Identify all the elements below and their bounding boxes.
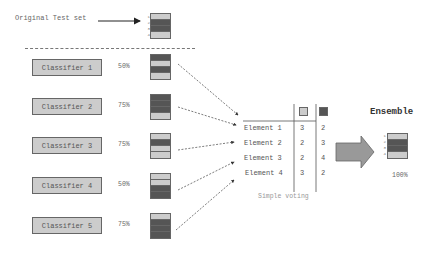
- classifier-4-stack: [150, 173, 171, 199]
- classifier-3-stack: [150, 133, 171, 159]
- row-label: Element 1: [244, 124, 282, 132]
- classifier-5-box: Classifier 5: [32, 217, 102, 234]
- classifier-4-accuracy: 50%: [118, 181, 130, 188]
- ensemble-title: Ensemble: [370, 107, 413, 117]
- legend-dark-square: [319, 107, 328, 116]
- big-arrow-icon: [336, 136, 374, 168]
- ensemble-accuracy: 100%: [392, 172, 408, 179]
- vote-light: 3: [300, 124, 304, 132]
- classifier-3-box: Classifier 3: [32, 137, 102, 154]
- classifier-1-stack: [150, 54, 171, 80]
- classifier-2-accuracy: 75%: [118, 102, 130, 109]
- divider: [25, 48, 195, 49]
- vote-light: 2: [300, 139, 304, 147]
- classifier-5-accuracy: 75%: [118, 221, 130, 228]
- original-test-set-stack: [150, 13, 171, 39]
- row-label: Element 2: [244, 139, 282, 147]
- vote-dark: 4: [321, 154, 325, 162]
- row-label: Element 3: [244, 154, 282, 162]
- classifier-5-stack: [150, 213, 171, 239]
- vote-light: 2: [300, 154, 304, 162]
- row-label: Element 4: [245, 169, 283, 177]
- vote-dark: 2: [321, 169, 325, 177]
- classifier-1-accuracy: 50%: [118, 63, 130, 70]
- vote-dark: 2: [321, 124, 325, 132]
- ensemble-index-col: 1 2 3 4: [380, 133, 386, 157]
- classifier-3-accuracy: 75%: [118, 141, 130, 148]
- ensemble-stack: [387, 133, 408, 159]
- classifier-4-box: Classifier 4: [32, 177, 102, 194]
- classifier-2-stack: [150, 94, 171, 120]
- vote-dark: 3: [321, 139, 325, 147]
- classifier-2-box: Classifier 2: [32, 98, 102, 115]
- vote-light: 3: [300, 169, 304, 177]
- classifier-1-box: Classifier 1: [32, 59, 102, 76]
- original-test-set-label: Original Test set: [15, 14, 86, 22]
- legend-light-square: [299, 107, 308, 116]
- simple-voting-caption: Simple voting: [258, 193, 309, 200]
